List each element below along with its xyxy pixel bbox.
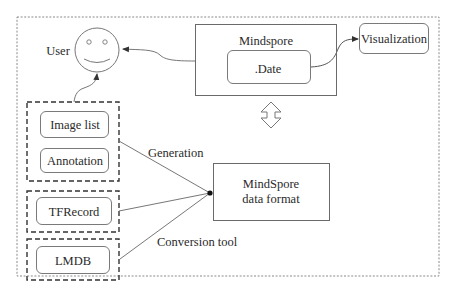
conversion-tool-label: Conversion tool — [157, 236, 237, 249]
tfrecord-label: TFRecord — [49, 206, 100, 219]
generation-label: Generation — [148, 147, 204, 160]
sources-to-user-arrow — [74, 74, 97, 102]
mindspore-label: Mindspore — [239, 35, 293, 48]
image-list-label: Image list — [50, 119, 100, 132]
data-format-label: MindSpore data format — [242, 177, 299, 207]
annotation-label: Annotation — [47, 155, 103, 168]
data-format-line1: MindSpore — [242, 177, 299, 192]
smiley-face-icon — [75, 28, 119, 72]
junction-dot — [207, 190, 212, 195]
user-label: User — [46, 45, 70, 58]
lmdb-label: LMDB — [55, 255, 91, 268]
date-label: .Date — [255, 63, 282, 76]
visualization-label: Visualization — [361, 33, 427, 46]
bidirectional-arrow-icon — [261, 102, 281, 128]
mindspore-to-user-arrow — [123, 49, 195, 61]
data-format-line2: data format — [242, 192, 299, 207]
